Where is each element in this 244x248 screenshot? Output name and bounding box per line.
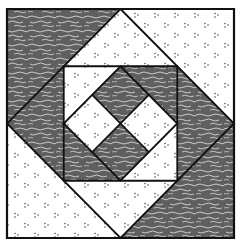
quilt-block <box>0 0 244 248</box>
